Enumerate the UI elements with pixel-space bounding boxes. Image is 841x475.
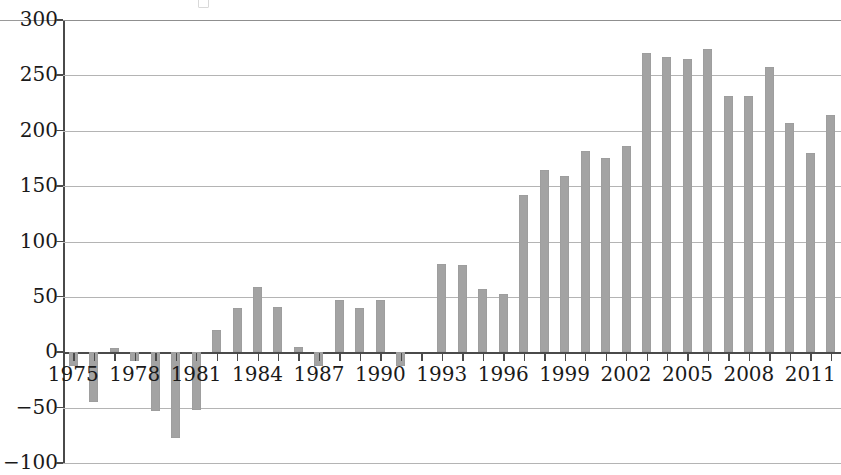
x-tick-mark — [687, 353, 688, 361]
x-tick-mark — [380, 353, 381, 361]
x-tick-label: 2002 — [601, 364, 652, 384]
y-tick-label: 150 — [0, 175, 58, 195]
bar-chart: 300250200150100500−50−100 19751978198119… — [0, 0, 841, 475]
y-tick-mark — [56, 296, 63, 298]
y-tick-mark — [56, 462, 63, 464]
x-tick-mark — [155, 353, 156, 361]
x-tick-label: 2008 — [723, 364, 774, 384]
y-tick-label: 50 — [0, 286, 58, 306]
x-tick-mark — [728, 353, 729, 361]
x-tick-mark — [94, 353, 95, 361]
x-tick-mark — [298, 353, 299, 361]
y-tick-mark — [56, 241, 63, 243]
y-tick-mark — [56, 351, 63, 353]
y-tick-mark — [56, 130, 63, 132]
x-tick-mark — [626, 353, 627, 361]
y-tick-label: −100 — [0, 452, 58, 472]
x-tick-mark — [401, 353, 402, 361]
x-tick-mark — [790, 353, 791, 361]
x-tick-mark — [217, 353, 218, 361]
y-tick-mark — [56, 74, 63, 76]
x-tick-mark — [462, 353, 463, 361]
x-tick-mark — [810, 353, 811, 361]
y-tick-mark — [56, 185, 63, 187]
x-tick-mark — [769, 353, 770, 361]
y-tick-label: −50 — [0, 397, 58, 417]
x-tick-label: 1978 — [109, 364, 160, 384]
x-tick-label: 1999 — [539, 364, 590, 384]
x-tick-label: 1987 — [293, 364, 344, 384]
x-tick-label: 1981 — [171, 364, 222, 384]
x-tick-mark — [176, 353, 177, 361]
x-tick-mark — [524, 353, 525, 361]
x-tick-label: 2005 — [662, 364, 713, 384]
x-tick-mark — [544, 353, 545, 361]
x-tick-mark — [483, 353, 484, 361]
x-tick-mark — [565, 353, 566, 361]
x-tick-mark — [339, 353, 340, 361]
x-tick-label: 1984 — [232, 364, 283, 384]
x-tick-mark — [442, 353, 443, 361]
x-tick-mark — [114, 353, 115, 361]
x-tick-label: 1990 — [355, 364, 406, 384]
x-tick-mark — [421, 353, 422, 361]
y-tick-mark — [56, 19, 63, 21]
x-tick-label: 2011 — [785, 364, 836, 384]
x-tick-mark — [319, 353, 320, 361]
x-tick-mark — [606, 353, 607, 361]
y-tick-label: 100 — [0, 231, 58, 251]
x-tick-mark — [503, 353, 504, 361]
x-tick-mark — [708, 353, 709, 361]
y-tick-label: 300 — [0, 9, 58, 29]
x-tick-mark — [667, 353, 668, 361]
x-tick-mark — [749, 353, 750, 361]
y-tick-mark — [56, 407, 63, 409]
x-tick-mark — [196, 353, 197, 361]
x-tick-label: 1975 — [48, 364, 99, 384]
y-tick-label: 250 — [0, 64, 58, 84]
x-tick-mark — [278, 353, 279, 361]
x-tick-label: 1996 — [478, 364, 529, 384]
x-tick-mark — [258, 353, 259, 361]
x-tick-mark — [585, 353, 586, 361]
x-tick-mark — [360, 353, 361, 361]
x-tick-mark — [237, 353, 238, 361]
x-tick-label: 1993 — [416, 364, 467, 384]
x-tick-mark — [73, 353, 74, 361]
y-tick-label: 0 — [0, 341, 58, 361]
y-axis: 300250200150100500−50−100 — [0, 0, 841, 475]
x-tick-mark — [647, 353, 648, 361]
y-tick-label: 200 — [0, 120, 58, 140]
x-tick-mark — [831, 353, 832, 361]
x-tick-mark — [135, 353, 136, 361]
